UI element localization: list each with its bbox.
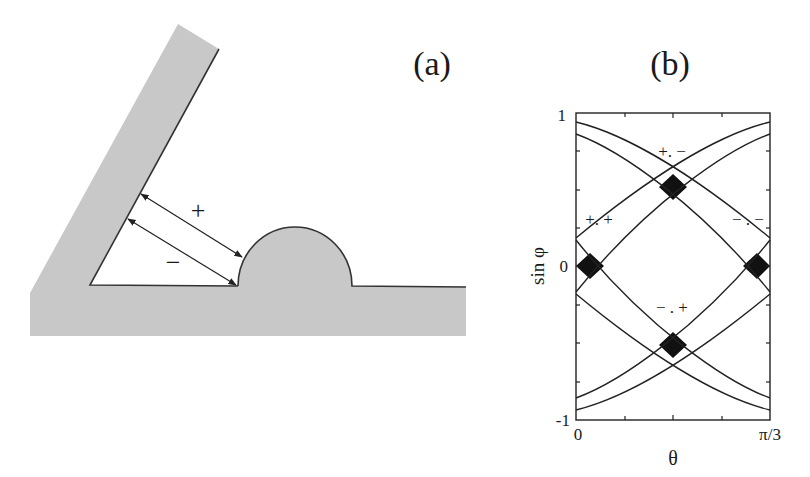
curve-desc-3 xyxy=(576,240,770,398)
curve-asc-4 xyxy=(576,240,770,398)
curves xyxy=(576,122,770,410)
plus-label: + xyxy=(191,196,206,225)
panel-a: + − (a) xyxy=(30,24,466,336)
panel-a-label: (a) xyxy=(413,45,451,83)
x-tick-label-0: 0 xyxy=(574,425,583,444)
y-axis-label: sin φ xyxy=(527,247,548,285)
figure: + − (a) (b) xyxy=(0,0,810,477)
region-label-left: +. + xyxy=(585,210,613,229)
minus-label: − xyxy=(166,248,181,277)
x-axis-label: θ xyxy=(668,447,678,469)
filled-diamonds xyxy=(576,174,770,358)
region-label-top: +. − xyxy=(658,142,686,161)
region-label-right: − . − xyxy=(732,210,764,229)
x-tick-label-pi3: π/3 xyxy=(759,425,781,444)
minus-path-arrow xyxy=(128,219,236,285)
wall-and-floor-shape xyxy=(30,24,466,336)
y-tick-label-1: 1 xyxy=(558,106,567,125)
region-label-bottom: − . + xyxy=(656,298,688,317)
panel-b-label: (b) xyxy=(650,45,690,83)
y-tick-label-minus1: -1 xyxy=(556,411,570,430)
y-tick-label-0: 0 xyxy=(560,257,569,276)
panel-b: (b) xyxy=(527,45,781,469)
